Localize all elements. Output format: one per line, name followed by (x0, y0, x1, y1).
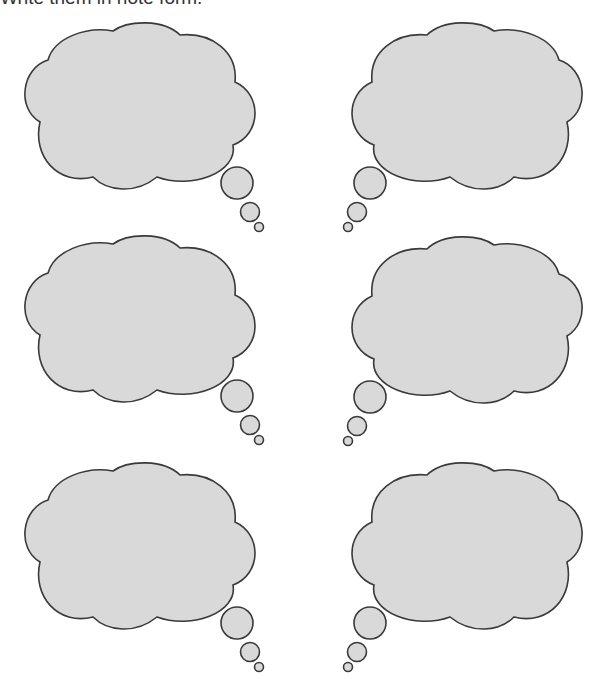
thought-bubble-medium (241, 643, 260, 662)
thought-bubble-medium (348, 203, 367, 222)
thought-bubble-medium (348, 643, 367, 662)
instruction-heading: Write them in note form. (0, 0, 202, 9)
thought-bubble-small (255, 663, 264, 672)
cloud-body (25, 236, 255, 402)
thought-bubble-small (255, 223, 264, 232)
thought-bubble-small (344, 437, 353, 446)
thought-bubble-medium (241, 203, 260, 222)
cloud-body (25, 463, 255, 629)
thought-cloud-middle-right[interactable] (321, 236, 583, 446)
thought-cloud-top-right[interactable] (321, 22, 583, 232)
thought-bubble-large (354, 381, 386, 413)
thought-bubble-large (354, 607, 386, 639)
thought-cloud-bottom-left[interactable] (24, 462, 286, 672)
thought-bubble-large (221, 607, 253, 639)
thought-cloud-top-left[interactable] (24, 22, 286, 232)
cloud-body (25, 23, 255, 189)
thought-bubble-large (221, 167, 253, 199)
thought-bubble-small (255, 436, 264, 445)
thought-cloud-bottom-right[interactable] (321, 462, 583, 672)
cloud-body (352, 463, 582, 629)
thought-bubble-medium (241, 416, 260, 435)
thought-bubble-large (221, 380, 253, 412)
thought-bubble-medium (348, 417, 367, 436)
thought-bubble-large (354, 167, 386, 199)
thought-cloud-middle-left[interactable] (24, 235, 286, 445)
thought-bubble-small (344, 223, 353, 232)
cloud-body (352, 237, 582, 403)
thought-bubble-small (344, 663, 353, 672)
cloud-body (352, 23, 582, 189)
